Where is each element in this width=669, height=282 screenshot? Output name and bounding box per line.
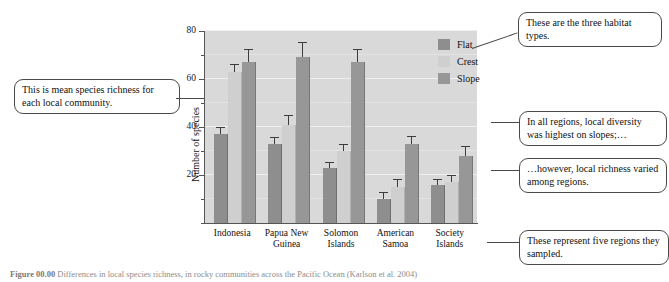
legend-swatch-flat-icon [438,39,450,50]
legend-swatch-slope-icon [438,73,450,84]
bar-crest [391,187,405,223]
error-bar [248,50,249,62]
error-bar [274,138,275,144]
leader-slopes-highest [491,122,519,123]
legend-item-slope: Slope [438,70,480,87]
error-bar-cap [461,146,470,147]
chart-plot-area [205,31,477,223]
error-bar [343,145,344,151]
error-bar [329,163,330,168]
x-label-line2: Islands [415,239,485,250]
error-bar-cap [433,179,442,180]
error-bar-cap [407,136,416,137]
error-bar-cap [447,175,456,176]
error-bar [397,180,398,187]
error-bar-cap [353,49,362,50]
bar-flat [323,168,337,223]
x-label-line1: Society [415,228,485,239]
error-bar-cap [339,144,348,145]
bar-flat [268,144,282,223]
y-tick-70 [201,55,204,56]
callout-varied-regions: …however, local richness varied among re… [519,158,667,193]
y-tick-50 [201,103,204,104]
y-tick-10 [201,199,204,200]
error-bar [234,65,235,72]
y-tick-label-80: 80 [172,25,196,35]
y-axis-title: Number of species [178,72,192,182]
bar-slope [459,156,473,223]
callout-habitat-types: These are the three habitat types. [518,12,662,47]
bar-flat [431,185,445,223]
bar-group [214,31,255,223]
callout-slopes-highest: In all regions, local diversity was high… [519,111,667,146]
error-bar-cap [393,179,402,180]
y-tick-80 [199,31,204,32]
error-bar-cap [230,64,239,65]
legend-label-flat: Flat [457,39,473,50]
error-bar [357,50,358,62]
figure-caption-text: Differences in local species richness, i… [57,269,417,279]
bar-slope [296,57,310,223]
error-bar-cap [244,49,253,50]
bar-crest [337,151,351,223]
bar-group [377,31,418,223]
bar-group [268,31,309,223]
error-bar [220,128,221,134]
legend-item-flat: Flat [438,36,480,53]
error-bar-cap [270,137,279,138]
error-bar [411,137,412,144]
bar-slope [405,144,419,223]
error-bar [437,180,438,185]
figure-caption: Figure 00.00 Differences in local specie… [10,269,660,279]
error-bar-cap [298,42,307,43]
leader-varied-regions [491,170,519,171]
error-bar-cap [379,192,388,193]
callout-mean-richness: This is mean species richness for each l… [14,79,180,114]
x-axis-label-society-islands: SocietyIslands [415,228,485,250]
error-bar-cap [216,127,225,128]
y-axis-title-text: Number of species [190,107,201,182]
error-bar [451,176,452,182]
callout-five-regions: These represent five regions they sample… [519,230,669,265]
error-bar-cap [325,162,334,163]
bar-slope [242,62,256,223]
legend-label-slope: Slope [457,73,480,84]
bar-flat [377,199,391,223]
leader-mean-richness [176,98,204,99]
error-bar [288,116,289,124]
bar-crest [282,125,296,223]
y-tick-60 [199,79,204,80]
legend-label-crest: Crest [457,56,478,67]
bar-slope [351,62,365,223]
bar-flat [214,134,228,223]
legend-swatch-crest-icon [438,56,450,67]
legend-item-crest: Crest [438,53,480,70]
y-tick-30 [201,151,204,152]
bar-crest [228,72,242,223]
error-bar [302,43,303,57]
figure-number: Figure 00.00 [10,269,55,279]
bar-group [323,31,364,223]
bar-crest [445,182,459,223]
error-bar-cap [284,115,293,116]
error-bar [465,147,466,155]
x-axis-line [204,223,478,224]
error-bar [383,193,384,199]
leader-five-regions [487,242,519,243]
y-axis-line [204,31,205,224]
y-tick-0 [201,223,204,224]
chart-legend: Flat Crest Slope [438,36,480,87]
